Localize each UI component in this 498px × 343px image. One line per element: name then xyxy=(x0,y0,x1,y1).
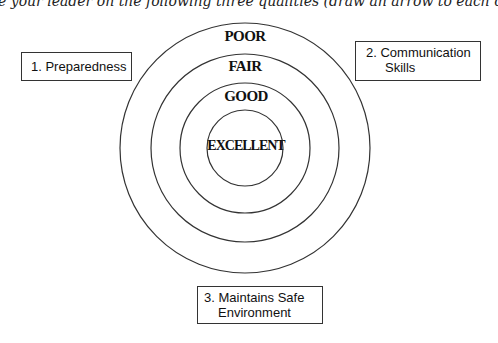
quality-box-maintains-safe-environment[interactable]: 3. Maintains Safe Environment xyxy=(197,286,323,324)
quality-box-preparedness[interactable]: 1. Preparedness xyxy=(21,52,132,81)
label-good: GOOD xyxy=(224,88,267,105)
quality-label-line1: 2. Communication xyxy=(366,45,480,60)
quality-label-line2: Skills xyxy=(366,60,480,75)
quality-box-communication-skills[interactable]: 2. Communication Skills xyxy=(355,41,481,81)
quality-label: 1. Preparedness xyxy=(31,59,131,74)
quality-label-line1: 3. Maintains Safe xyxy=(204,290,322,305)
label-poor: POOR xyxy=(225,28,266,45)
label-excellent: EXCELLENT xyxy=(207,138,284,154)
quality-label-line2: Environment xyxy=(204,305,322,320)
label-fair: FAIR xyxy=(228,58,261,75)
